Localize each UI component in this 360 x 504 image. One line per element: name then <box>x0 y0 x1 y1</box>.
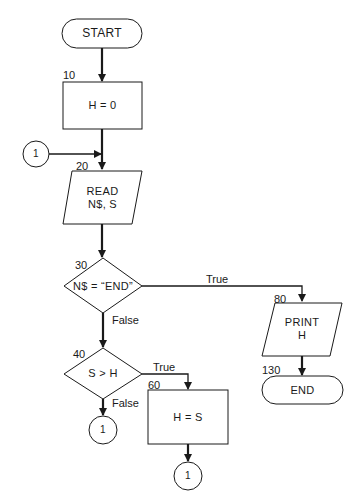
process-60-label: H = S <box>148 411 228 424</box>
end-label: END <box>262 384 343 397</box>
io-80-line2: H <box>262 329 342 342</box>
line-number-40: 40 <box>73 348 85 360</box>
decision-30-label: N$ = “END” <box>64 280 142 293</box>
connector-1-after60-label: 1 <box>174 469 202 482</box>
edge-label-false-40: False <box>112 397 139 409</box>
decision-40-label: S > H <box>64 367 142 380</box>
edge-label-true-40: True <box>153 361 175 373</box>
line-number-80: 80 <box>274 293 286 305</box>
io-20-line2: N$, S <box>63 198 142 211</box>
io-20-line1: READ <box>63 185 142 198</box>
line-number-130: 130 <box>262 364 280 376</box>
line-number-60: 60 <box>148 379 160 391</box>
line-number-30: 30 <box>75 259 87 271</box>
flowchart-canvas <box>0 0 360 504</box>
process-10-label: H = 0 <box>63 99 142 112</box>
line-number-10: 10 <box>63 69 75 81</box>
connector-1-false-label: 1 <box>89 423 117 436</box>
io-80-line1: PRINT <box>262 316 342 329</box>
line-number-20: 20 <box>76 160 88 172</box>
edge-label-true-30: True <box>206 273 228 285</box>
start-label: START <box>62 27 142 40</box>
connector-1-in-label: 1 <box>23 147 49 160</box>
edge-label-false-30: False <box>112 314 139 326</box>
